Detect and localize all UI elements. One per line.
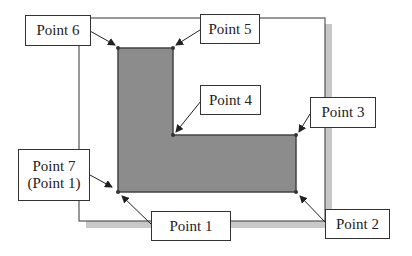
label-point5: Point 5 (200, 14, 260, 44)
vertex-point4 (171, 133, 175, 137)
label-point4: Point 4 (200, 85, 261, 115)
label-point5-text: Point 5 (209, 21, 252, 38)
vertex-point2 (294, 190, 298, 194)
label-point7: Point 7 (Point 1) (18, 149, 90, 201)
label-point1: Point 1 (151, 211, 231, 241)
label-point6: Point 6 (25, 15, 91, 46)
label-point4-text: Point 4 (209, 92, 252, 109)
label-point6-text: Point 6 (37, 22, 80, 39)
label-point2-text: Point 2 (336, 216, 379, 233)
vertex-point1 (116, 190, 120, 194)
label-point7-alias-text: (Point 1) (28, 175, 81, 192)
vertex-point5 (171, 46, 175, 50)
label-point2: Point 2 (325, 209, 390, 239)
label-point7-text: Point 7 (33, 158, 76, 175)
vertex-point6 (116, 46, 120, 50)
label-point3: Point 3 (310, 97, 376, 128)
label-point1-text: Point 1 (170, 218, 213, 235)
vertex-point3 (294, 133, 298, 137)
label-point3-text: Point 3 (322, 104, 365, 121)
